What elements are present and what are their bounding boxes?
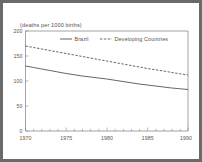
- y-tick-label-150: 150: [13, 53, 22, 59]
- x-tick-label-1980: 1980: [101, 135, 113, 141]
- y-tick-label-50: 50: [16, 103, 22, 109]
- chart-legend: Brazil Developing Countries: [60, 36, 168, 42]
- legend-label-developing-countries: Developing Countries: [115, 36, 169, 42]
- x-axis-ticks: [26, 128, 189, 132]
- x-tick-label-1985: 1985: [142, 135, 154, 141]
- series-line-brazil: [26, 66, 189, 90]
- x-tick-label-1970: 1970: [19, 135, 31, 141]
- x-tick-label-1990: 1990: [180, 135, 192, 141]
- line-chart: (deaths per 1000 births) 200 150 100 50 …: [3, 3, 199, 159]
- x-tick-label-1975: 1975: [60, 135, 72, 141]
- y-tick-label-0: 0: [19, 128, 22, 134]
- y-tick-label-200: 200: [13, 28, 22, 34]
- y-axis-unit-label: (deaths per 1000 births): [20, 22, 82, 28]
- figure-root: (deaths per 1000 births) 200 150 100 50 …: [0, 0, 202, 162]
- chart-canvas: (deaths per 1000 births) 200 150 100 50 …: [3, 3, 199, 159]
- y-axis-tick-labels: 200 150 100 50 0: [13, 28, 22, 134]
- legend-label-brazil: Brazil: [75, 36, 89, 42]
- y-tick-label-100: 100: [13, 78, 22, 84]
- x-axis-tick-labels: 1970 1975 1980 1985 1990: [19, 135, 192, 141]
